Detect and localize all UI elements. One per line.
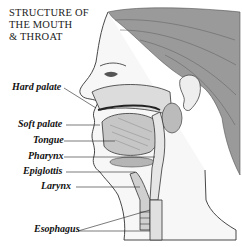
parotid-gland	[162, 103, 182, 133]
diagram-canvas: STRUCTURE OF THE MOUTH & THROAT Hard pal…	[0, 0, 242, 247]
label-tongue: Tongue	[33, 134, 64, 145]
tongue-shape	[102, 113, 159, 155]
label-esophagus: Esophagus	[34, 223, 80, 234]
esophagus-shape	[150, 200, 162, 240]
submandibular-gland	[110, 157, 154, 167]
title-line-3: & THROAT	[9, 31, 89, 43]
title-line-1: STRUCTURE OF	[9, 7, 89, 19]
label-epiglottis: Epiglottis	[23, 165, 62, 176]
ear	[180, 75, 201, 110]
label-larynx: Larynx	[41, 180, 71, 191]
title-line-2: THE MOUTH	[9, 19, 89, 31]
diagram-title: STRUCTURE OF THE MOUTH & THROAT	[9, 7, 89, 43]
label-soft-palate: Soft palate	[18, 118, 62, 129]
label-pharynx: Pharynx	[28, 150, 64, 161]
label-hard-palate: Hard palate	[12, 81, 61, 92]
